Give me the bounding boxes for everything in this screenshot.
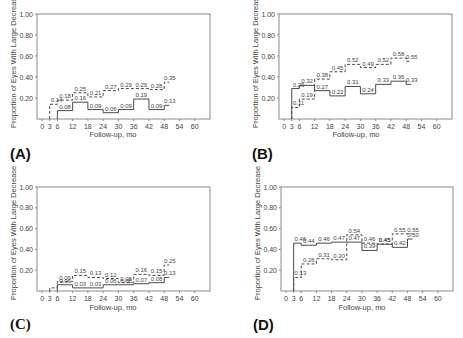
x-tick-label: 60 (434, 295, 442, 302)
value-label: 0.21 (90, 90, 102, 96)
value-label: 0.08 (59, 104, 71, 110)
x-tick-label: 6 (297, 123, 301, 130)
value-label: 0.30 (333, 253, 345, 259)
value-label: 0.46 (318, 236, 330, 242)
x-tick-label: 48 (402, 123, 410, 130)
y-tick-label: 0.60 (263, 225, 277, 232)
value-label: 0.26 (303, 257, 315, 263)
value-label: 0.19 (135, 92, 147, 98)
value-label: 0.38 (316, 72, 328, 78)
x-tick-label: 30 (115, 295, 123, 302)
y-tick-label: 0.20 (19, 95, 33, 102)
y-tick-label: 0.80 (261, 32, 275, 39)
value-label: 0.27 (316, 84, 328, 90)
x-tick-label: 24 (343, 295, 351, 302)
value-label: 0.58 (393, 51, 405, 57)
x-tick-label: 0 (282, 123, 286, 130)
step-chart-d: 0.200.400.600.801.0003612182430364248546… (231, 170, 463, 338)
value-label: 0.33 (406, 77, 418, 83)
step-chart-a: 0.200.400.600.801.0003612182430364248546… (0, 0, 231, 170)
x-tick-label: 48 (160, 123, 168, 130)
y-tick-label: 0.60 (19, 225, 33, 232)
value-label: 0.18 (59, 93, 71, 99)
y-tick-label: 1.00 (263, 184, 277, 191)
value-label: 0.35 (164, 75, 176, 81)
value-label: 0.47 (349, 235, 361, 241)
value-label: 0.52 (377, 57, 389, 63)
y-tick-label: 0.40 (263, 246, 277, 253)
y-tick-label: 0.40 (19, 74, 33, 81)
x-tick-label: 42 (387, 123, 395, 130)
x-tick-label: 42 (388, 295, 396, 302)
x-tick-label: 54 (176, 295, 184, 302)
value-label: 0.13 (164, 98, 176, 104)
value-label: 0.12 (105, 272, 117, 278)
x-tick-label: 0 (284, 295, 288, 302)
x-axis-label: Follow-up, mo (338, 303, 385, 312)
value-label: 0.27 (105, 84, 117, 90)
y-tick-label: 1.00 (19, 184, 33, 191)
y-tick-label: 0.40 (19, 246, 33, 253)
value-label: 0.44 (303, 238, 315, 244)
value-label: 0.15 (151, 268, 163, 274)
y-tick-label: 1.00 (261, 11, 275, 18)
x-tick-label: 54 (419, 295, 427, 302)
value-label: 0.29 (135, 82, 147, 88)
value-label: 0.13 (295, 270, 307, 276)
value-label: 0.07 (135, 277, 147, 283)
y-axis-label: Proportion of Eyes With Large Decrease (9, 166, 18, 300)
value-label: 0.25 (164, 258, 176, 264)
x-tick-label: 6 (55, 295, 59, 302)
x-tick-label: 12 (69, 295, 77, 302)
value-label: 0.52 (347, 57, 359, 63)
y-tick-label: 0.80 (19, 204, 33, 211)
step-chart-c: 0.200.400.600.801.0003612182430364248546… (0, 170, 231, 338)
x-tick-label: 54 (418, 123, 426, 130)
value-label: 0.15 (74, 268, 86, 274)
dashed-step-line (292, 58, 412, 119)
value-label: 0.03 (90, 281, 102, 287)
value-label: 0.45 (332, 65, 344, 71)
value-label: 0.33 (377, 77, 389, 83)
x-axis-label: Follow-up, mo (332, 130, 379, 139)
x-tick-label: 42 (145, 123, 153, 130)
x-tick-label: 60 (191, 295, 199, 302)
value-label: 0.11 (293, 100, 305, 106)
x-tick-label: 36 (373, 295, 381, 302)
x-tick-label: 24 (99, 295, 107, 302)
x-tick-label: 12 (311, 123, 319, 130)
value-label: 0.06 (105, 106, 117, 112)
value-label: 0.45 (379, 237, 391, 243)
panel-c: 0.200.400.600.801.0003612182430364248546… (0, 170, 231, 338)
x-axis-label: Follow-up, mo (89, 303, 136, 312)
value-label: 0.03 (74, 281, 86, 287)
x-tick-label: 42 (145, 295, 153, 302)
value-label: 0.16 (135, 267, 147, 273)
y-tick-label: 0.40 (261, 74, 275, 81)
y-tick-label: 0.20 (263, 267, 277, 274)
value-label: 0.55 (406, 54, 418, 60)
x-tick-label: 24 (99, 123, 107, 130)
y-tick-label: 1.00 (19, 11, 33, 18)
value-label: 0.54 (349, 228, 361, 234)
x-tick-label: 60 (433, 123, 441, 130)
x-tick-label: 18 (328, 295, 336, 302)
x-tick-label: 6 (299, 295, 303, 302)
value-label: 0.49 (362, 61, 374, 67)
value-label: 0.13 (90, 270, 102, 276)
value-label: 0.09 (120, 103, 132, 109)
x-tick-label: 18 (326, 123, 334, 130)
y-tick-label: 0.20 (261, 95, 275, 102)
x-tick-label: 36 (130, 123, 138, 130)
value-label: 0.39 (364, 243, 376, 249)
value-label: 0.09 (151, 103, 163, 109)
x-tick-label: 0 (40, 295, 44, 302)
x-tick-label: 54 (176, 123, 184, 130)
panel-a: 0.200.400.600.801.0003612182430364248546… (0, 0, 231, 170)
value-label: 0.06 (59, 278, 71, 284)
y-axis-label: Proportion of Eyes With Large Decrease (253, 166, 262, 300)
value-label: 0.36 (393, 74, 405, 80)
x-axis-label: Follow-up, mo (89, 130, 136, 139)
value-label: 0.25 (74, 86, 86, 92)
x-tick-label: 24 (341, 123, 349, 130)
